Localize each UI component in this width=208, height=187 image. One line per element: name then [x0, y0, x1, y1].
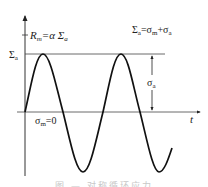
diagram-canvas: Rm=α Σa Σa Σa=σm+σa σa σm=0 t	[0, 0, 208, 187]
figure-caption: 图 — 对称循环应力	[0, 179, 208, 187]
stress-cycle-diagram: Rm=α Σa Σa Σa=σm+σa σa σm=0 t 图 — 对称循环应力	[0, 0, 208, 187]
stress-waveform	[25, 54, 172, 172]
rm-equation-label: Rm=α Σa	[29, 29, 68, 43]
sigma-a-level-label: Σa	[9, 49, 19, 62]
sum-equation-label: Σa=σm+σa	[132, 24, 172, 37]
mean-zero-label: σm=0	[35, 115, 56, 128]
amplitude-label: σa	[147, 77, 156, 90]
time-axis-label: t	[190, 113, 194, 125]
